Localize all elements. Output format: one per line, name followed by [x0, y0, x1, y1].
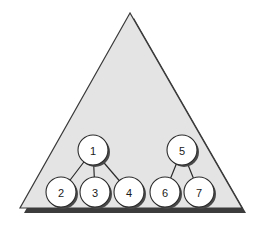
- node-circle-7[interactable]: [184, 177, 214, 207]
- node-6[interactable]: 6: [150, 177, 180, 207]
- node-2[interactable]: 2: [46, 177, 76, 207]
- node-circle-4[interactable]: [114, 177, 144, 207]
- node-7[interactable]: 7: [184, 177, 214, 207]
- node-circle-1[interactable]: [78, 135, 108, 165]
- figure-canvas: 1234567: [0, 0, 264, 230]
- node-3[interactable]: 3: [80, 177, 110, 207]
- node-circle-2[interactable]: [46, 177, 76, 207]
- node-5[interactable]: 5: [167, 135, 197, 165]
- node-circle-3[interactable]: [80, 177, 110, 207]
- node-4[interactable]: 4: [114, 177, 144, 207]
- node-1[interactable]: 1: [78, 135, 108, 165]
- node-circle-5[interactable]: [167, 135, 197, 165]
- node-circle-6[interactable]: [150, 177, 180, 207]
- triangle-node-diagram: 1234567: [0, 0, 264, 230]
